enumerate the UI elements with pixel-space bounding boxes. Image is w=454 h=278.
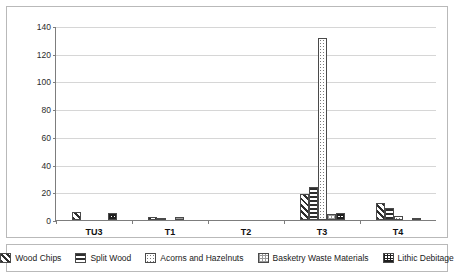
legend-swatch-icon <box>0 253 11 263</box>
bar <box>300 194 309 220</box>
bar <box>376 203 385 220</box>
bar <box>175 217 184 220</box>
y-axis-tick-label: 40 <box>42 161 51 171</box>
bar <box>72 212 81 220</box>
x-axis-tick-label: TU3 <box>85 227 102 237</box>
y-axis-tick-label: 0 <box>46 216 51 226</box>
y-axis-tick-label: 60 <box>42 133 51 143</box>
plot-area: 020406080100120140 TU3T1T2T3T4 <box>55 27 436 221</box>
x-axis-tick-mark <box>208 220 209 224</box>
x-axis-tick-mark <box>132 220 133 224</box>
chart-frame: 020406080100120140 TU3T1T2T3T4 <box>6 6 448 238</box>
legend-label: Wood Chips <box>15 253 61 263</box>
legend-item: Lithic Debitage <box>383 253 454 263</box>
bar <box>318 38 327 220</box>
bar <box>327 214 336 220</box>
bar-group: TU3 <box>56 27 132 220</box>
x-axis-tick-label: T2 <box>241 227 252 237</box>
legend-swatch-icon <box>258 253 269 263</box>
bar <box>148 217 157 220</box>
y-axis-tick-label: 140 <box>37 22 51 32</box>
legend-item: Acorns and Hazelnuts <box>145 253 243 263</box>
x-axis-tick-mark <box>56 220 57 224</box>
bar <box>157 218 166 220</box>
bar <box>394 216 403 220</box>
bar-group: T1 <box>132 27 208 220</box>
y-axis-tick-label: 120 <box>37 50 51 60</box>
bar <box>309 187 318 220</box>
bar-group: T4 <box>360 27 436 220</box>
bar <box>336 213 345 220</box>
legend-item: Split Wood <box>75 253 131 263</box>
bar <box>108 213 117 220</box>
chart-legend: Wood ChipsSplit WoodAcorns and Hazelnuts… <box>6 244 448 272</box>
legend-label: Acorns and Hazelnuts <box>160 253 243 263</box>
bar-group: T2 <box>208 27 284 220</box>
legend-swatch-icon <box>145 253 156 263</box>
legend-swatch-icon <box>75 253 86 263</box>
legend-label: Lithic Debitage <box>398 253 454 263</box>
x-axis-tick-mark <box>284 220 285 224</box>
bar <box>385 208 394 220</box>
x-axis-tick-label: T3 <box>317 227 328 237</box>
chart-screenshot: 020406080100120140 TU3T1T2T3T4 Wood Chip… <box>0 0 454 278</box>
bar-group: T3 <box>284 27 360 220</box>
legend-label: Basketry Waste Materials <box>273 253 369 263</box>
bar <box>412 218 421 220</box>
x-axis-tick-label: T1 <box>165 227 176 237</box>
plot-wrapper: 020406080100120140 TU3T1T2T3T4 <box>7 7 449 239</box>
y-axis-tick-label: 100 <box>37 77 51 87</box>
legend-item: Wood Chips <box>0 253 61 263</box>
legend-item: Basketry Waste Materials <box>258 253 369 263</box>
x-axis-tick-label: T4 <box>393 227 404 237</box>
legend-label: Split Wood <box>90 253 131 263</box>
x-axis-tick-mark <box>360 220 361 224</box>
y-axis-tick-label: 80 <box>42 105 51 115</box>
y-axis-tick-label: 20 <box>42 188 51 198</box>
bar-groups: TU3T1T2T3T4 <box>56 27 436 220</box>
legend-swatch-icon <box>383 253 394 263</box>
